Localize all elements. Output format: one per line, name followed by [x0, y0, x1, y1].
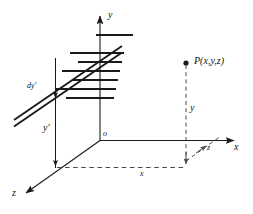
- y-prime-label: y': [43, 123, 50, 133]
- point-P-label: P(x,y,z): [194, 56, 224, 66]
- diagram-canvas: [0, 0, 253, 214]
- dy-prime-label: dy': [27, 82, 36, 90]
- x-axis-label: x: [234, 142, 238, 152]
- z-axis-label: z: [12, 188, 16, 198]
- z-dash-arrow-stub: [196, 146, 206, 153]
- y-axis-label: y: [108, 10, 112, 20]
- P-height-label: y: [190, 103, 194, 113]
- source-strip-group: [14, 35, 133, 168]
- point-P-marker: [183, 60, 188, 65]
- hatch-lines-group: [56, 35, 133, 98]
- field-point-group: [57, 60, 221, 167]
- z-axis-line: [26, 141, 100, 194]
- P-depth-label: z: [207, 144, 210, 152]
- origin-label: o: [103, 130, 107, 138]
- ground-distance-label: x: [140, 170, 144, 178]
- axis-group: [26, 16, 234, 193]
- depth-dashed-z-line: [186, 136, 221, 161]
- figure-root: y x z o dy' y' P(x,y,z) y z x: [0, 0, 253, 214]
